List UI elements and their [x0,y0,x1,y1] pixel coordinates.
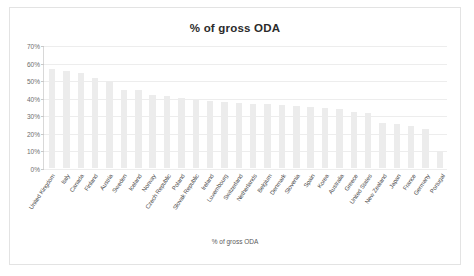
bar[interactable] [63,71,69,168]
bar[interactable] [394,124,400,168]
x-axis-label-slot: Sweden [116,171,130,233]
x-axis-label-slot: Korea [318,171,332,233]
bar[interactable] [437,151,443,168]
y-tick-mark [41,134,44,135]
bar-slot [404,46,418,168]
bar[interactable] [408,126,414,168]
bar-slot [433,46,447,168]
y-tick-mark [41,46,44,47]
bar[interactable] [264,104,270,168]
bar-slot [318,46,332,168]
plot-wrapper: 70%60%50%40%30%20%10%0% [43,46,447,170]
bar-slot [361,46,375,168]
x-axis-labels: United KingdomItalyCanadaFinlandAustriaS… [44,171,448,233]
chart-title: % of gross ODA [10,22,460,34]
x-axis-label-slot: Spain [304,171,318,233]
y-axis-tick-label: 10% [27,148,40,155]
x-axis-label-slot: New Zealand [376,171,390,233]
x-axis-label-slot: Japan [390,171,404,233]
bar-slot [217,46,231,168]
bar[interactable] [422,129,428,168]
x-axis-label-slot: Luxembourg [217,171,231,233]
x-axis-label-slot: Slovak Republic [188,171,202,233]
x-axis-label-slot: Switzerland [231,171,245,233]
bar[interactable] [293,106,299,168]
x-axis-label-slot: Slovenia [289,171,303,233]
bar[interactable] [351,112,357,168]
x-axis-label-slot: Denmark [275,171,289,233]
x-axis-label-slot: Germany [419,171,433,233]
bar[interactable] [121,90,127,168]
bar-slot [289,46,303,168]
x-axis-label-slot: Finland [87,171,101,233]
bar[interactable] [178,98,184,168]
y-tick-mark [41,169,44,170]
bar-slot [390,46,404,168]
bar-slot [260,46,274,168]
bar[interactable] [379,123,385,168]
bar[interactable] [135,90,141,168]
bar[interactable] [322,108,328,168]
x-axis-label-slot: Czech Republic [159,171,173,233]
x-axis-label-slot: Portugal [433,171,447,233]
gridline [44,169,447,170]
y-axis-tick-label: 50% [27,78,40,85]
bar[interactable] [236,103,242,168]
bar-slot [45,46,59,168]
x-axis-label-slot: Iceland [131,171,145,233]
x-axis-label-slot: Austria [102,171,116,233]
bar-slot [74,46,88,168]
bar-slot [131,46,145,168]
bar[interactable] [193,100,199,168]
x-axis-label: Japan [388,173,402,190]
y-axis-tick-label: 30% [27,113,40,120]
bar[interactable] [307,107,313,168]
bar[interactable] [221,102,227,168]
bar[interactable] [149,95,155,168]
bar-slot [146,46,160,168]
y-axis-tick-label: 20% [27,130,40,137]
y-tick-mark [41,99,44,100]
bar[interactable] [336,109,342,168]
bar-slot [375,46,389,168]
bar[interactable] [106,81,112,168]
bar[interactable] [250,104,256,168]
x-axis-label: United Kingdom [28,173,56,211]
y-tick-mark [41,116,44,117]
x-axis-label-slot: France [405,171,419,233]
x-axis-label-slot: Netherlands [246,171,260,233]
x-axis-label-slot: Italy [58,171,72,233]
bar[interactable] [365,113,371,168]
bar-slot [275,46,289,168]
y-tick-mark [41,81,44,82]
bar[interactable] [164,96,170,168]
bar-slot [88,46,102,168]
x-axis-label-slot: Belgium [260,171,274,233]
bar-slot [232,46,246,168]
bar-slot [189,46,203,168]
x-axis-label: Spain [302,173,315,189]
bar-series [45,46,447,168]
plot-area: 70%60%50%40%30%20%10%0% [43,46,447,170]
bar-slot [332,46,346,168]
y-axis-tick-label: 70% [27,43,40,50]
x-axis-label-slot: Canada [73,171,87,233]
bar[interactable] [49,69,55,168]
x-axis-label: Korea [317,173,331,189]
bar-slot [174,46,188,168]
bar-slot [102,46,116,168]
bar-slot [246,46,260,168]
bar[interactable] [279,105,285,168]
bar-slot [303,46,317,168]
y-axis-tick-label: 40% [27,95,40,102]
y-tick-mark [41,151,44,152]
chart-card: % of gross ODA 70%60%50%40%30%20%10%0% U… [9,7,461,265]
bar-slot [160,46,174,168]
bar-slot [59,46,73,168]
y-tick-mark [41,64,44,65]
bar[interactable] [207,101,213,168]
bar[interactable] [78,73,84,168]
x-axis-label-slot: United Kingdom [44,171,58,233]
bar[interactable] [92,78,98,168]
y-axis-tick-label: 60% [27,60,40,67]
